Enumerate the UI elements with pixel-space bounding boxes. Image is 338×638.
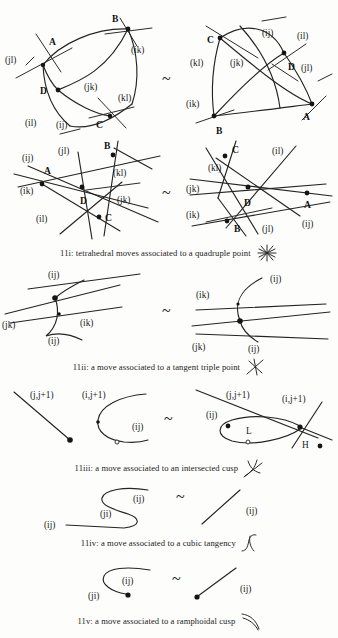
diagram-11iv-right: (ij) xyxy=(202,490,257,524)
edge-label: (ij) xyxy=(48,336,59,347)
edge-label: (jl) xyxy=(58,146,69,157)
figure-11iv: (ij) (ji) (ij) ~ (ij) xyxy=(0,484,338,532)
curve-label: H xyxy=(302,440,309,450)
edge-label: (il) xyxy=(297,31,308,42)
edge-label: (ij) xyxy=(302,219,313,230)
edge-label: (ik) xyxy=(196,290,209,301)
diagram-11iii-left: (j,j+1) (i,j+1) (ij) xyxy=(14,390,148,444)
equivalence-symbol: ~ xyxy=(164,410,173,427)
diagram-11v-right: (ij) xyxy=(194,568,251,600)
figure-page: A B C D (jl) (ik) (jk) (kl) (il) (ij) ~ xyxy=(0,0,338,638)
curve-label: (ij) xyxy=(240,584,251,595)
vertex-label: B xyxy=(112,13,119,24)
vertex-label: D xyxy=(80,195,87,206)
caption-11v: 11v: a move associated to a ramphoidal c… xyxy=(0,611,338,631)
vertex-label: A xyxy=(303,111,310,122)
vertex-label: B xyxy=(234,223,241,234)
edge-label: (ij) xyxy=(270,274,281,285)
vertex-label: C xyxy=(96,119,103,130)
equivalence-symbol: ~ xyxy=(172,570,181,587)
edge-label: (ij) xyxy=(248,344,259,355)
edge-label: (jl) xyxy=(301,63,312,74)
curve-label: (ij) xyxy=(246,506,257,517)
edge-label: (ij) xyxy=(48,270,59,281)
vertex-label: D xyxy=(40,85,47,96)
caption-11v-text: 11v: a move associated to a ramphoidal c… xyxy=(77,616,235,626)
edge-label: (kl) xyxy=(118,93,131,104)
vertex-label: C xyxy=(232,144,239,155)
edge-label: (ij) xyxy=(56,120,67,131)
edge-label: (kl) xyxy=(190,58,203,69)
edge-label: (jl) xyxy=(262,224,273,235)
caption-11i-text: 11i: tetrahedral moves associated to a q… xyxy=(60,248,251,258)
ramphoid-arc-icon xyxy=(241,611,261,631)
edge-label: (il) xyxy=(272,146,283,157)
caption-11iii-text: 11iii: a move associated to an intersect… xyxy=(75,463,239,473)
diagram-11i-row2-left: A B C D (ij) (jl) (kl) (ik) (jk) (il) xyxy=(14,140,160,239)
diagram-11ii-left: (ij) (jk) (ik) (ij) xyxy=(2,270,140,347)
edge-label: (jk) xyxy=(2,320,15,331)
edge-label: (il) xyxy=(25,118,36,129)
diagram-11iii-right: (j,j+1) (i,j+1) (ij) L H xyxy=(196,390,332,450)
vertex-label: A xyxy=(49,36,56,47)
figure-11i-row2: A B C D (ij) (jl) (kl) (ik) (jk) (il) ~ xyxy=(0,136,338,244)
edge-label: (ik) xyxy=(186,99,199,110)
figure-11iii: (j,j+1) (i,j+1) (ij) ~ (j,j+1) (i,j+1) (… xyxy=(0,382,338,462)
caption-11i: 11i: tetrahedral moves associated to a q… xyxy=(0,243,338,263)
edge-label: (il) xyxy=(36,214,47,225)
edge-label: (kl) xyxy=(208,163,221,174)
curve-label: (j,j+1) xyxy=(226,390,250,401)
curve-label: (ji) xyxy=(88,591,99,602)
edge-label: (ij) xyxy=(22,153,33,164)
crossed-lines-icon xyxy=(245,358,265,376)
vertex-label: B xyxy=(104,140,111,151)
diagram-11i-row1-left: A B C D (jl) (ik) (jk) (kl) (il) (ij) xyxy=(5,13,152,134)
figure-11ii: (ij) (jk) (ik) (ij) ~ (ij) (ik) (jk) (ij… xyxy=(0,266,338,354)
vertex-label: D xyxy=(288,61,295,72)
edge-label: (jk) xyxy=(192,342,205,353)
caption-11iv-text: 11iv: a move associated to a cubic tange… xyxy=(81,538,236,548)
vertex-label: C xyxy=(207,34,214,45)
edge-label: (jl) xyxy=(5,55,16,66)
diagram-11v-left: (ij) (ji) xyxy=(88,568,150,602)
vertex-label: B xyxy=(216,125,223,136)
curve-label: (ij) xyxy=(133,494,144,505)
vertex-label: A xyxy=(44,165,51,176)
curve-label: (i,j+1) xyxy=(82,390,106,401)
caption-11ii: 11ii: a move associated to a tangent tri… xyxy=(0,358,338,376)
curve-label: (i,j+1) xyxy=(282,394,306,405)
vertex-label: D xyxy=(244,197,251,208)
figure-11v: (ij) (ji) ~ (ij) xyxy=(0,562,338,610)
s-curve-icon xyxy=(241,533,257,553)
edge-label: (ik) xyxy=(20,186,33,197)
curve-label: (j,j+1) xyxy=(30,390,54,401)
curve-label: (ij) xyxy=(132,422,143,433)
edge-label: (ik) xyxy=(80,318,93,329)
figure-11i-row1: A B C D (jl) (ik) (jk) (kl) (il) (ij) ~ xyxy=(0,8,338,136)
vertex-label: A xyxy=(304,199,311,210)
curve-label: (ij) xyxy=(206,410,217,421)
vertex-label: C xyxy=(105,212,112,223)
equivalence-symbol: ~ xyxy=(162,70,171,87)
caption-11iii: 11iii: a move associated to an intersect… xyxy=(0,458,338,478)
edge-label: (jk) xyxy=(186,184,199,195)
edge-label: (jk) xyxy=(84,82,97,93)
equivalence-symbol: ~ xyxy=(176,488,185,505)
edge-label: (jk) xyxy=(117,195,130,206)
edge-label: (ij) xyxy=(262,28,273,39)
equivalence-symbol: ~ xyxy=(162,184,171,201)
edge-label: (ik) xyxy=(131,45,144,56)
diagram-11i-row1-right: C D A B (ij) (il) (kl) (jk) (jl) (ik) xyxy=(186,17,332,136)
cusp-branch-icon xyxy=(243,458,263,478)
edge-label: (jk) xyxy=(230,58,243,69)
diagram-11ii-right: (ij) (ik) (jk) (ij) xyxy=(192,274,330,355)
caption-11ii-text: 11ii: a move associated to a tangent tri… xyxy=(73,362,240,372)
asterisk-star-icon xyxy=(256,243,278,263)
edge-label: (ik) xyxy=(186,210,199,221)
curve-label: (ij) xyxy=(122,576,133,587)
diagram-11iv-left: (ij) (ji) (ij) xyxy=(44,488,148,531)
caption-11iv: 11iv: a move associated to a cubic tange… xyxy=(0,533,338,553)
equivalence-symbol: ~ xyxy=(162,302,171,319)
curve-label: (ij) xyxy=(44,520,55,531)
diagram-11i-row2-right: C D A B (il) (kl) (jk) (ik) (jl) (ij) xyxy=(186,141,332,236)
